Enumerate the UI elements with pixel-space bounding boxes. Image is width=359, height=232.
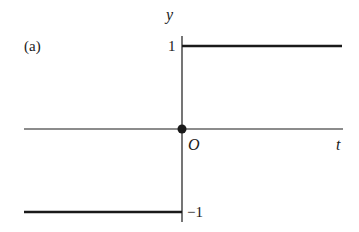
t-axis-label: t bbox=[336, 136, 341, 153]
tick-label-upper: 1 bbox=[168, 38, 176, 54]
signum-function-diagram: (a) y 1 −1 O t bbox=[0, 0, 359, 232]
origin-label: O bbox=[188, 136, 200, 153]
panel-label: (a) bbox=[24, 38, 41, 55]
tick-label-lower: −1 bbox=[187, 204, 203, 220]
y-axis-label: y bbox=[164, 6, 174, 24]
origin-dot bbox=[178, 125, 187, 134]
